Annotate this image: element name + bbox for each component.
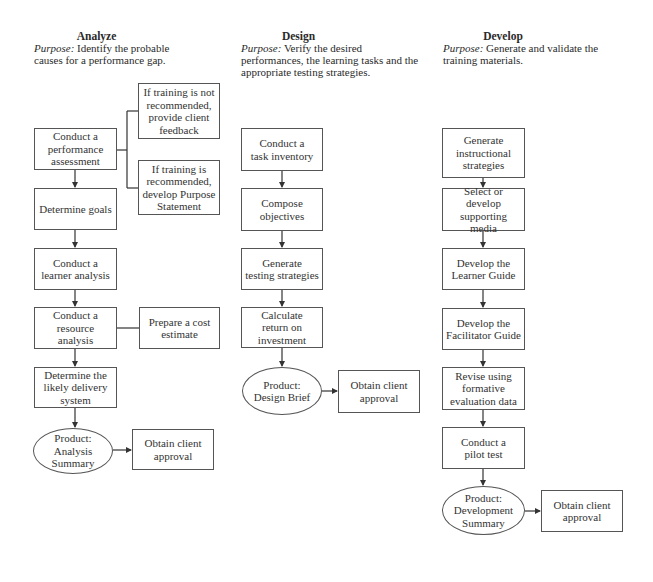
develop-title: Develop — [443, 30, 563, 42]
design-step-task-inventory: Conduct a task inventory — [241, 128, 323, 171]
develop-approval: Obtain client approval — [541, 490, 623, 532]
design-step-compose-objectives: Compose objectives — [241, 188, 323, 231]
develop-step-revise-formative: Revise using formative evaluation data — [442, 367, 525, 410]
analyze-title: Analyze — [34, 30, 159, 42]
analyze-step-determine-goals: Determine goals — [34, 188, 117, 230]
analyze-side-cost-estimate: Prepare a cost estimate — [139, 307, 220, 349]
analyze-product-ellipse: Product: Analysis Summary — [33, 428, 113, 474]
develop-step-learner-guide: Develop the Learner Guide — [442, 248, 525, 290]
develop-step-facilitator-guide: Develop the Facilitator Guide — [442, 308, 525, 350]
develop-purpose-label: Purpose: — [443, 42, 483, 54]
analyze-side-recommended: If training is recommended, develop Purp… — [138, 160, 220, 215]
analyze-header: Analyze Purpose: Identify the probable c… — [34, 30, 194, 66]
design-step-calculate-roi: Calculate return on investment — [241, 307, 323, 348]
analyze-step-delivery-system: Determine the likely delivery system — [34, 367, 117, 408]
analyze-step-performance-assessment: Conduct a performance assessment — [34, 128, 117, 170]
analyze-step-resource-analysis: Conduct a resource analysis — [34, 307, 117, 349]
analyze-approval: Obtain client approval — [132, 429, 214, 470]
develop-step-pilot-test: Conduct a pilot test — [442, 427, 525, 469]
analyze-side-not-recommended: If training is not recommended, provide … — [138, 83, 220, 139]
develop-header: Develop Purpose: Generate and validate t… — [443, 30, 613, 66]
develop-step-instructional-strategies: Generate instructional strategies — [442, 128, 525, 178]
design-approval: Obtain client approval — [338, 370, 420, 413]
design-title: Design — [241, 30, 356, 42]
analyze-purpose-label: Purpose: — [34, 42, 74, 54]
develop-product-ellipse: Product: Development Summary — [442, 486, 525, 535]
design-purpose-label: Purpose: — [241, 42, 281, 54]
design-header: Design Purpose: Verify the desired perfo… — [241, 30, 421, 78]
design-product-ellipse: Product: Design Brief — [242, 367, 322, 415]
design-step-testing-strategies: Generate testing strategies — [241, 248, 323, 290]
analyze-step-learner-analysis: Conduct a learner analysis — [34, 248, 117, 290]
develop-step-supporting-media: Select or develop supporting media — [442, 188, 525, 231]
